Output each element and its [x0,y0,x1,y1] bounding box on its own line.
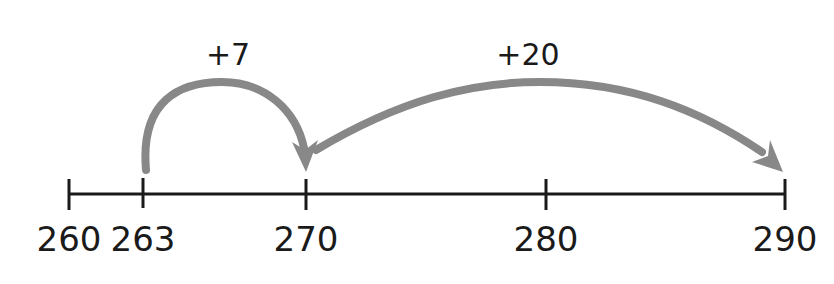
jump-arrow-plus-7 [145,82,304,170]
tick-label-290: 290 [753,222,818,256]
tick-label-260: 260 [37,222,102,256]
jump-arrow-plus-20 [316,82,762,152]
tick-label-280: 280 [514,222,579,256]
jump-label-plus-20: +20 [496,40,559,70]
jump-label-plus-7: +7 [206,40,250,70]
tick-label-270: 270 [274,222,339,256]
tick-label-263: 263 [111,222,176,256]
